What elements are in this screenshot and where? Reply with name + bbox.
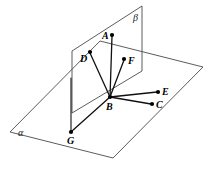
point-b-dot [108,95,112,99]
figure-canvas [0,0,212,173]
point-label-c: C [156,100,163,110]
segment-bc [110,97,151,104]
point-label-e: E [162,87,169,97]
point-label-a: A [102,31,109,41]
segment-ba [110,36,112,97]
point-d-dot [88,50,92,54]
segment-bf [110,60,124,97]
point-e-dot [156,90,160,94]
point-g-dot [69,130,73,134]
segment-be [110,92,157,97]
point-label-b: B [106,102,113,112]
geometry-figure: A B C D E F G α β [0,0,212,173]
point-label-g: G [67,136,74,146]
segment-bd [90,53,110,97]
point-f-dot [122,57,126,61]
point-c-dot [150,102,154,106]
point-a-dot [110,33,114,37]
point-label-f: F [128,56,135,66]
plane-label-beta: β [133,13,138,23]
plane-label-alpha: α [18,128,23,138]
point-label-d: D [80,54,87,64]
